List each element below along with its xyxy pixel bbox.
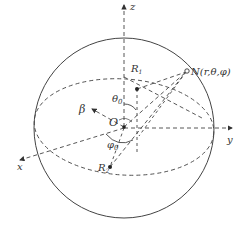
line-r1-n	[137, 72, 186, 89]
line-r2-n	[110, 72, 186, 167]
y-axis-label: y	[226, 134, 233, 145]
origin-point	[122, 125, 126, 129]
sphere-diagram: z y x O β θ0 φ0 R1 R2 N(r,θ,φ)	[0, 0, 248, 233]
x-axis-label: x	[17, 161, 23, 172]
r2-label: R2	[97, 162, 110, 174]
line-o-n	[124, 72, 186, 127]
r1-point	[135, 87, 139, 91]
line-r1-horizontal	[124, 77, 202, 118]
beta-label: β	[78, 103, 85, 116]
r1-label: R1	[130, 63, 142, 75]
z-axis-label: z	[129, 1, 136, 12]
theta0-arc	[124, 104, 136, 110]
origin-label: O	[109, 116, 118, 129]
n-point	[185, 69, 189, 73]
beta-vector	[92, 109, 124, 127]
theta0-label: θ0	[112, 93, 123, 106]
phi0-label: φ0	[107, 139, 119, 152]
point-n-label: N(r,θ,φ)	[190, 66, 231, 77]
